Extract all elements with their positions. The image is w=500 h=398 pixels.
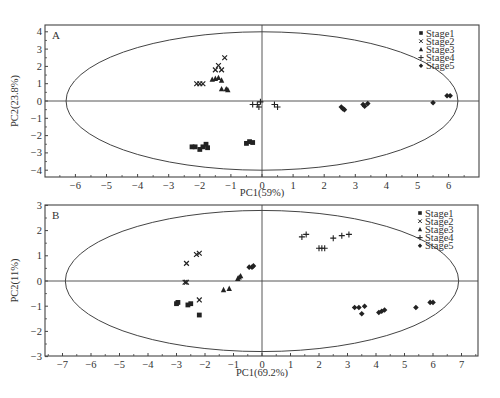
y-tick-label: 0: [37, 276, 42, 287]
x-marker: [197, 298, 202, 303]
y-tick-label: 4: [37, 26, 43, 37]
x-legend-icon: [419, 39, 423, 43]
panel-letter: A: [52, 29, 60, 41]
x-tick-label: 6: [430, 359, 435, 370]
x-tick-label: 4: [373, 359, 379, 370]
triangle-marker: [219, 86, 224, 91]
x-tick-label: −6: [85, 359, 96, 370]
triangle-legend-icon: [418, 227, 422, 231]
y-tick-label: −2: [31, 326, 42, 337]
square-marker: [205, 145, 210, 150]
legend: Stage1Stage2Stage3Stage4Stage5: [418, 28, 455, 72]
triangle-marker: [221, 287, 226, 292]
x-tick-label: −5: [101, 180, 112, 191]
y-tick-label: −1: [31, 301, 42, 312]
pca-figure: −6−5−4−3−2−10123456−4−3−2−101234APC1(59%…: [0, 0, 500, 398]
plus-marker: [339, 233, 345, 239]
x-tick-label: 1: [288, 359, 293, 370]
square-marker: [197, 313, 202, 318]
square-marker: [193, 144, 198, 149]
series-stage3: [221, 273, 244, 292]
y-tick-label: 0: [37, 96, 42, 107]
diamond-legend-icon: [418, 244, 422, 248]
x-tick-label: 7: [459, 359, 464, 370]
panel-letter: B: [52, 209, 59, 221]
x-tick-label: −4: [142, 359, 154, 370]
diamond-marker: [362, 303, 368, 309]
x-tick-label: 1: [290, 180, 295, 191]
y-tick-label: −2: [31, 130, 42, 141]
y-axis-title: PC2(11%): [9, 258, 21, 302]
x-tick-label: −7: [57, 359, 68, 370]
square-marker: [176, 300, 181, 305]
plus-marker: [330, 235, 336, 241]
y-tick-label: 3: [37, 200, 42, 211]
x-tick-label: −4: [132, 180, 144, 191]
x-tick-label: 6: [446, 180, 451, 191]
x-axis-title: PC1(69.2%): [236, 367, 289, 379]
x-tick-label: 5: [415, 180, 420, 191]
x-tick-label: 5: [402, 359, 407, 370]
legend-label: Stage5: [426, 60, 455, 71]
x-marker: [201, 81, 206, 86]
series-stage4: [250, 99, 281, 110]
panel-b-plot: −7−6−5−4−3−2−101234567−3−2−10123BPC1(69.…: [9, 200, 478, 379]
x-tick-label: 4: [384, 180, 390, 191]
diamond-marker: [359, 311, 365, 317]
x-tick-label: −2: [194, 180, 205, 191]
x-tick-label: −2: [199, 359, 210, 370]
y-tick-label: 2: [37, 61, 42, 72]
y-axis-title: PC2(23.8%): [9, 74, 21, 127]
series-stage3: [210, 75, 231, 93]
square-marker: [188, 301, 193, 306]
square-legend-icon: [418, 211, 422, 215]
x-tick-label: 3: [353, 180, 358, 191]
y-tick-label: 1: [37, 78, 42, 89]
triangle-marker: [216, 75, 221, 80]
diamond-marker: [447, 93, 453, 99]
x-tick-label: 2: [322, 180, 327, 191]
x-tick-label: −1: [225, 180, 236, 191]
series-stage5: [246, 263, 435, 316]
diamond-marker: [430, 300, 436, 306]
y-tick-label: 1: [37, 250, 42, 261]
x-marker: [222, 55, 227, 60]
triangle-marker: [227, 286, 232, 291]
diamond-marker: [413, 305, 419, 311]
legend-label: Stage5: [425, 240, 454, 251]
y-tick-label: −3: [31, 351, 42, 362]
y-tick-label: −3: [31, 147, 42, 158]
x-marker: [213, 67, 218, 72]
x-tick-label: 3: [345, 359, 350, 370]
x-marker: [216, 63, 221, 68]
x-axis-title: PC1(59%): [240, 187, 285, 199]
plus-marker: [322, 245, 328, 251]
y-tick-label: 2: [37, 225, 42, 236]
series-stage1: [174, 300, 202, 317]
plus-marker: [346, 231, 352, 237]
x-tick-label: 2: [316, 359, 321, 370]
triangle-legend-icon: [419, 47, 423, 51]
square-marker: [250, 140, 255, 145]
y-tick-label: −1: [31, 113, 42, 124]
series-stage1: [190, 139, 255, 152]
diamond-marker: [356, 305, 362, 311]
legend: Stage1Stage2Stage3Stage4Stage5: [417, 208, 454, 252]
series-stage4: [299, 231, 352, 251]
square-legend-icon: [419, 31, 423, 35]
x-tick-label: −3: [163, 180, 174, 191]
y-tick-label: 3: [37, 44, 42, 55]
x-legend-icon: [418, 219, 422, 223]
series-stage5: [339, 93, 453, 112]
plot-frame: [45, 205, 478, 356]
x-tick-label: −6: [70, 180, 81, 191]
x-marker: [184, 261, 189, 266]
x-tick-label: −3: [171, 359, 182, 370]
x-tick-label: −5: [114, 359, 125, 370]
y-tick-label: −4: [31, 165, 43, 176]
series-stage2: [183, 251, 202, 302]
diamond-legend-icon: [419, 64, 423, 68]
x-marker: [219, 67, 224, 72]
panel-a-plot: −6−5−4−3−2−10123456−4−3−2−101234APC1(59%…: [9, 25, 479, 199]
